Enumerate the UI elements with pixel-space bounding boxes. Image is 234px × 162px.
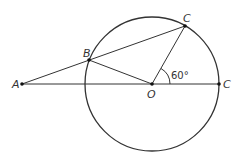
angle-label: 60° <box>171 70 189 81</box>
label-a: A <box>11 78 20 91</box>
label-c-right: C <box>223 78 231 91</box>
segment-a-c-top <box>22 26 185 84</box>
point-c-right <box>217 82 221 86</box>
point-a <box>20 82 24 86</box>
label-b: B <box>83 47 91 60</box>
angle-arc <box>161 69 170 85</box>
geometry-diagram: A B O C C 60° <box>0 0 234 162</box>
segment-b-o <box>89 60 152 84</box>
point-o <box>150 82 154 86</box>
label-c-top: C <box>183 12 191 25</box>
label-o: O <box>147 88 156 101</box>
